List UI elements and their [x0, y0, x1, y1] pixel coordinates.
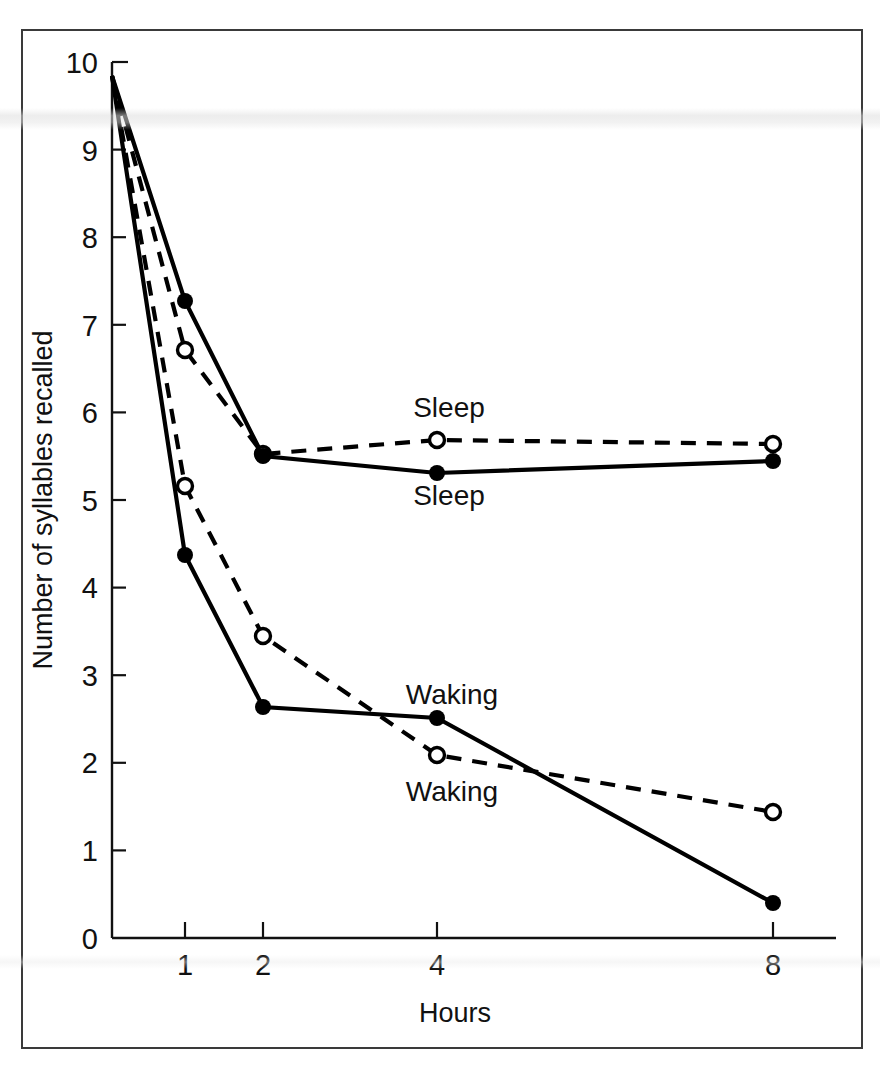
data-point	[177, 293, 193, 309]
x-tick-label-2: 2	[255, 949, 271, 981]
y-tick-label-1: 1	[82, 835, 98, 867]
series-markers-sleep-filled	[177, 293, 781, 481]
y-tick-label-9: 9	[82, 135, 98, 167]
series-label-sleep-open: Sleep	[413, 392, 485, 423]
figure-root: 0 1 2 3 4 5 6 7 8 9 10 1 2 4 8 Number of…	[0, 0, 880, 1067]
x-tick-label-1: 1	[177, 949, 193, 981]
x-tick-label-4: 4	[429, 949, 445, 981]
data-point	[429, 465, 445, 481]
data-point	[255, 448, 271, 464]
data-point	[429, 710, 445, 726]
y-tick-label-6: 6	[82, 397, 98, 429]
y-tick-label-10: 10	[66, 47, 98, 79]
x-tick-label-8: 8	[765, 949, 781, 981]
data-point	[766, 805, 781, 820]
y-tick-label-0: 0	[82, 923, 98, 955]
data-point	[177, 547, 193, 563]
series-label-sleep-filled: Sleep	[413, 480, 485, 511]
y-tick-marks	[112, 62, 128, 850]
data-point	[178, 343, 193, 358]
syllables-recalled-line-chart: 0 1 2 3 4 5 6 7 8 9 10 1 2 4 8 Number of…	[0, 0, 880, 1067]
data-point	[765, 453, 781, 469]
data-point	[430, 748, 445, 763]
series-label-waking-open: Waking	[406, 776, 498, 807]
x-tick-labels: 1 2 4 8	[177, 949, 781, 981]
y-tick-labels: 0 1 2 3 4 5 6 7 8 9 10	[66, 47, 98, 955]
y-tick-label-7: 7	[82, 310, 98, 342]
data-point	[178, 479, 193, 494]
y-tick-label-5: 5	[82, 485, 98, 517]
y-tick-label-8: 8	[82, 222, 98, 254]
data-point	[255, 699, 271, 715]
data-point	[430, 433, 445, 448]
x-axis-title: Hours	[419, 998, 491, 1028]
y-axis-title: Number of syllables recalled	[28, 330, 58, 669]
data-point	[766, 437, 781, 452]
x-tick-marks	[185, 922, 773, 938]
y-tick-label-2: 2	[82, 747, 98, 779]
series-markers-waking-open	[178, 479, 781, 820]
data-point	[256, 629, 271, 644]
y-tick-label-3: 3	[82, 660, 98, 692]
y-tick-label-4: 4	[82, 572, 98, 604]
data-point	[765, 895, 781, 911]
series-label-waking-filled: Waking	[406, 679, 498, 710]
